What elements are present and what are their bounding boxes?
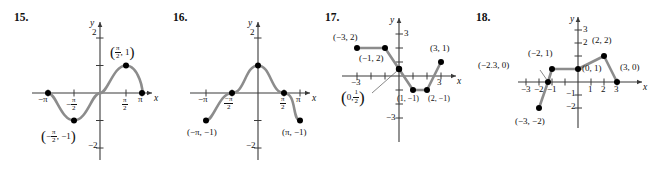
y-tick-3-18: 3 [583, 25, 588, 34]
annotation-neg2-1-18: (−2, 1) [528, 49, 553, 58]
x-tick-3-18: 3 [614, 85, 619, 94]
y-axis-label-16: y [248, 19, 252, 29]
y-tick-neg3-17: −3 [386, 113, 396, 122]
problem-panel-16: 16. [165, 0, 320, 176]
graph-16 [165, 0, 320, 176]
x-tick-neg2-18: −2 [534, 85, 544, 94]
annotation-3-0-18: (3, 0) [620, 63, 640, 72]
x-tick-pi-over-2-16: π2 [280, 96, 286, 111]
y-tick-2-16: 2 [250, 28, 255, 37]
y-tick-neg2-16: −2 [246, 141, 256, 150]
y-tick-neg2-18: −2 [566, 102, 576, 111]
x-tick-neg-pi-16: −π [198, 95, 208, 104]
x-tick-neg3-18: −3 [521, 85, 531, 94]
annotation-neg3-neg2-18: (−3, −2) [515, 117, 545, 126]
x-axis-label-15: x [154, 94, 158, 104]
x-axis-label-16: x [312, 94, 316, 104]
x-tick-neg1-18: −1 [547, 85, 557, 94]
annotation-0-half-17: (0,12) [341, 89, 365, 106]
x-tick-2-18: 2 [601, 85, 606, 94]
x-tick-pi-15: π [138, 95, 143, 104]
problem-panel-15: 15. [0, 0, 165, 176]
leader-line-18 [540, 70, 547, 80]
annotation-left-16: (−π, −1) [187, 128, 217, 137]
y-axis-label-17: y [390, 16, 394, 26]
x-tick-3-17: 3 [437, 78, 442, 87]
problem-panel-17: 17. [320, 0, 470, 176]
x-axis-label-17: x [457, 77, 461, 87]
exercise-figure-page: 15. [0, 0, 668, 176]
annotation-neg3-2-17: (−3, 2) [333, 33, 358, 42]
annotation-2-neg1-17: (2, −1) [428, 95, 450, 103]
annotation-neg2p3-0-18: (−2.3, 0) [478, 61, 509, 70]
y-tick-neg1-18: −1 [566, 89, 576, 98]
y-tick-3-17: 3 [404, 29, 409, 38]
x-axis-label-18: x [643, 83, 647, 93]
x-tick-neg-pi-over-2-15: −π2 [66, 97, 77, 112]
annotation-right-16: (π, −1) [282, 128, 307, 137]
y-tick-neg2-15: −2 [88, 141, 98, 150]
x-tick-neg-pi-over-2-16: −π2 [224, 96, 233, 111]
graph-15 [0, 0, 165, 176]
axes-18 [518, 17, 642, 128]
x-tick-neg3-17: −3 [351, 78, 361, 87]
problem-panel-18: 18. [470, 0, 668, 176]
y-tick-2-18: 2 [583, 38, 588, 47]
annotation-min-15: (−π2, −1) [41, 129, 76, 144]
annotation-3-1-17: (3, 1) [430, 44, 450, 53]
annotation-max-15: (π2, 1) [110, 45, 135, 60]
y-tick-2-15: 2 [92, 28, 97, 37]
y-axis-label-15: y [90, 19, 94, 29]
y-axis-label-18: y [570, 15, 574, 25]
x-tick-1-18: 1 [588, 85, 593, 94]
annotation-1-neg1-17: (1, −1) [397, 95, 419, 103]
annotation-neg1-2-17: (−1, 2) [359, 54, 384, 63]
x-tick-pi-16: π [296, 95, 301, 104]
annotation-0-1-18: (0, 1) [582, 64, 602, 73]
x-tick-neg-pi-15: −π [38, 95, 48, 104]
x-tick-pi-over-2-15: π2 [122, 97, 128, 112]
annotation-2-2-18: (2, 2) [592, 36, 612, 45]
